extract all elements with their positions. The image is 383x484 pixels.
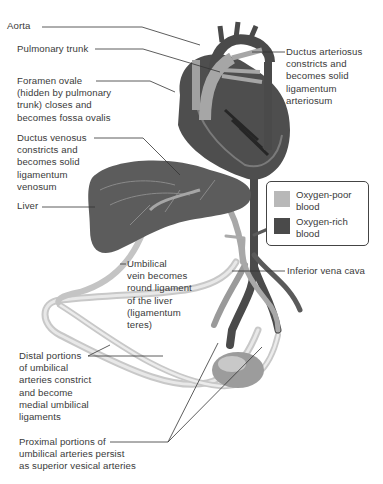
label-aorta: Aorta — [7, 20, 30, 32]
oxygen-poor-swatch — [274, 191, 290, 207]
legend: Oxygen-poor blood Oxygen-rich blood — [266, 181, 369, 246]
label-pulmonary-trunk: Pulmonary trunk — [17, 43, 88, 55]
legend-label-oxygen-poor: Oxygen-poor blood — [296, 189, 351, 212]
label-liver: Liver — [17, 200, 38, 212]
heart-illustration — [178, 22, 290, 180]
label-inferior-vena-cava: Inferior vena cava — [287, 265, 365, 277]
label-ductus-venosus: Ductus venosus constricts and becomes so… — [17, 132, 87, 193]
legend-item-oxygen-poor: Oxygen-poor blood — [274, 189, 351, 212]
oxygen-rich-swatch — [274, 218, 290, 234]
label-ductus-arteriosus: Ductus arteriosus constricts and becomes… — [286, 46, 362, 107]
label-proximal-umbilical-arteries: Proximal portions of umbilical arteries … — [19, 436, 136, 473]
label-foramen-ovale: Foramen ovale (hidden by pulmonary trunk… — [17, 75, 111, 124]
label-distal-umbilical-arteries: Distal portions of umbilical arteries co… — [19, 350, 91, 423]
label-umbilical-vein: Umbilical vein becomes round ligament of… — [127, 258, 192, 331]
liver-illustration — [88, 161, 251, 254]
legend-label-oxygen-rich: Oxygen-rich blood — [296, 216, 348, 239]
legend-item-oxygen-rich: Oxygen-rich blood — [274, 216, 348, 239]
